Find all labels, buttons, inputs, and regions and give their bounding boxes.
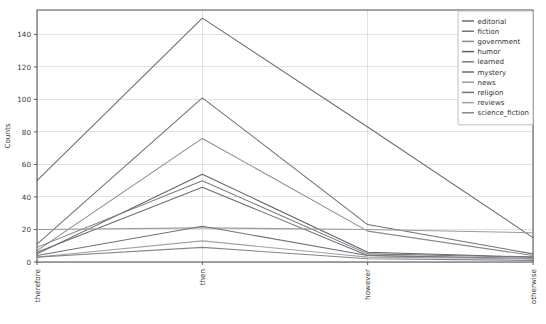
legend-label-government[interactable]: government	[478, 38, 521, 46]
legend-label-fiction[interactable]: fiction	[478, 28, 500, 36]
y-tick-label: 140	[17, 30, 31, 39]
y-tick-label: 60	[22, 160, 32, 169]
x-tick-label: therefore	[33, 268, 42, 302]
legend-label-news[interactable]: news	[478, 79, 496, 87]
y-tick-label: 0	[26, 258, 31, 267]
legend-label-humor[interactable]: humor	[478, 48, 501, 56]
legend-label-reviews[interactable]: reviews	[478, 99, 505, 107]
legend-label-learned[interactable]: learned	[478, 58, 504, 66]
legend-label-mystery[interactable]: mystery	[478, 69, 507, 77]
x-tick-label: otherwise	[529, 268, 538, 304]
y-tick-label: 20	[22, 225, 32, 234]
legend-label-science_fiction[interactable]: science_fiction	[478, 109, 530, 117]
x-axis-ticks: thereforethenhoweverotherwise	[33, 262, 538, 304]
legend-label-editorial[interactable]: editorial	[478, 18, 507, 26]
series-line-mystery	[37, 187, 533, 259]
series-line-learned	[37, 181, 533, 257]
x-tick-label: however	[363, 269, 372, 300]
y-axis-ticks: 020406080100120140	[17, 30, 37, 267]
line-chart: 020406080100120140 thereforethenhowevero…	[0, 0, 546, 324]
y-tick-label: 40	[22, 193, 32, 202]
chart-figure: 020406080100120140 thereforethenhowevero…	[0, 0, 546, 324]
chart-legend[interactable]: editorialfictiongovernmenthumorlearnedmy…	[458, 11, 533, 125]
y-tick-label: 100	[17, 95, 31, 104]
y-tick-label: 120	[17, 63, 31, 72]
x-tick-label: then	[198, 269, 207, 285]
legend-label-religion[interactable]: religion	[478, 89, 504, 97]
y-tick-label: 80	[22, 128, 32, 137]
series-line-news	[37, 228, 533, 233]
y-axis-label: Counts	[3, 123, 12, 148]
